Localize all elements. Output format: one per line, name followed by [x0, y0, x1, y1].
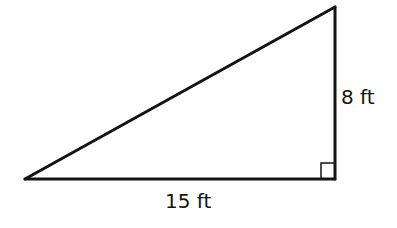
right-angle-marker: [321, 163, 335, 179]
hypotenuse-edge: [25, 7, 335, 179]
height-label: 8 ft: [341, 87, 375, 107]
base-label: 15 ft: [165, 191, 211, 211]
